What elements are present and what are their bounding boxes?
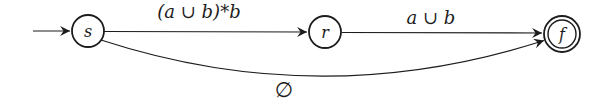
edge-r-f: [342, 33, 542, 34]
edge-s-f-label: ∅: [275, 78, 293, 102]
edge-s-r: [104, 32, 307, 33]
edge-s-r-label: (a ∪ b)*b: [157, 1, 240, 22]
automaton-diagram: (a ∪ b)*b a ∪ b ∅ s r f: [0, 0, 603, 103]
state-f: f: [544, 16, 580, 52]
edge-r-f-label: a ∪ b: [407, 7, 456, 28]
state-r: r: [309, 16, 341, 48]
state-s-label: s: [84, 22, 92, 41]
automaton-canvas: (a ∪ b)*b a ∪ b ∅ s r f: [0, 0, 603, 103]
state-s: s: [72, 15, 104, 47]
state-r-label: r: [321, 23, 330, 42]
